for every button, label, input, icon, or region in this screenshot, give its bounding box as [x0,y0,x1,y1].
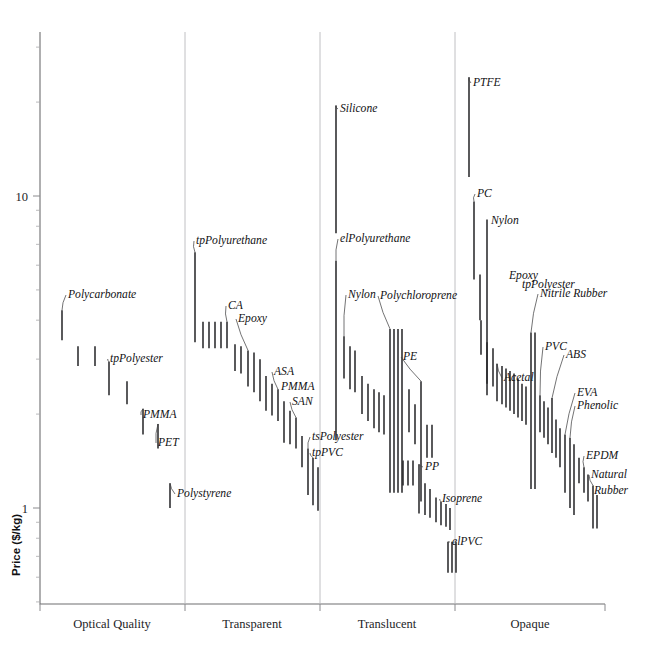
label-leader-line [308,437,310,449]
material-label: PMMA [142,408,177,421]
label-leader-lines [62,77,593,542]
material-label: PE [402,350,417,363]
label-leader-line [344,295,346,336]
material-label: PMMA [280,380,315,393]
material-label: Phenolic [576,399,619,412]
label-leader-line [62,295,66,310]
material-label: PC [476,187,492,200]
label-leader-line [552,355,564,398]
material-label: Polycarbonate [67,288,136,301]
x-category-label-1: Transparent [222,617,282,631]
material-label: Nitrile Rubber [539,287,608,300]
material-label: Acetal [503,371,534,384]
material-label: tsPolyester [312,430,364,443]
label-leader-line [107,359,109,361]
label-leader-line [193,241,195,252]
x-category-label-0: Optical Quality [73,617,151,631]
material-label: Silicone [340,102,377,115]
y-axis-title-text: Price ($/kg) [10,514,22,576]
material-label: EPDM [585,449,620,462]
y-tick-label-1: 1 [22,502,28,516]
chart-canvas: PolycarbonatetpPolyesterPMMAPETtpPolyure… [0,0,649,661]
label-leader-line [570,406,575,438]
material-label: Natural [590,468,627,481]
x-category-labels: Optical QualityTransparentTranslucentOpa… [73,617,550,631]
material-label: Isoprene [441,492,482,505]
material-label: tpPolyester [110,352,163,365]
label-leader-line [439,499,441,501]
x-category-label-2: Translucent [358,617,417,631]
material-label: PP [424,460,439,473]
material-labels-layer: PolycarbonatetpPolyesterPMMAPETtpPolyure… [67,76,629,548]
material-label: tpPolyurethane [196,234,267,247]
label-leader-line [225,306,227,322]
material-label: Epoxy [237,312,268,325]
material-label: tpPVC [312,446,343,459]
material-label: elPolyurethane [340,232,410,245]
material-label: elPVC [452,535,483,548]
material-label: SAN [292,395,314,408]
material-label: PET [157,436,180,449]
label-leader-line [583,456,584,467]
material-label: ASA [273,365,295,378]
material-label: PTFE [472,76,501,89]
material-label: Polychloroprene [379,289,457,302]
material-label: Rubber [593,484,629,497]
x-category-label-3: Opaque [511,617,550,631]
label-leader-line [336,239,338,261]
y-axis-title: Price ($/kg) [10,514,22,576]
axes-layer [33,32,605,604]
label-leader-line [540,347,543,395]
label-leader-line [565,393,575,435]
material-label: CA [228,299,244,312]
material-label: PVC [544,340,567,353]
material-label: ABS [565,348,586,361]
price-range-chart: PolycarbonatetpPolyesterPMMAPETtpPolyure… [0,0,649,661]
material-label: Nylon [347,288,376,301]
material-label: Nylon [490,214,519,227]
label-leader-line [473,194,475,202]
label-leader-line [531,294,538,333]
material-bars-layer [62,77,597,572]
material-label: Polystyrene [176,487,231,500]
y-tick-labels: 101 [16,190,29,516]
y-tick-label-0: 10 [16,190,29,204]
material-label: EVA [576,386,598,399]
category-separators [40,32,605,611]
axis-frame [40,32,605,604]
